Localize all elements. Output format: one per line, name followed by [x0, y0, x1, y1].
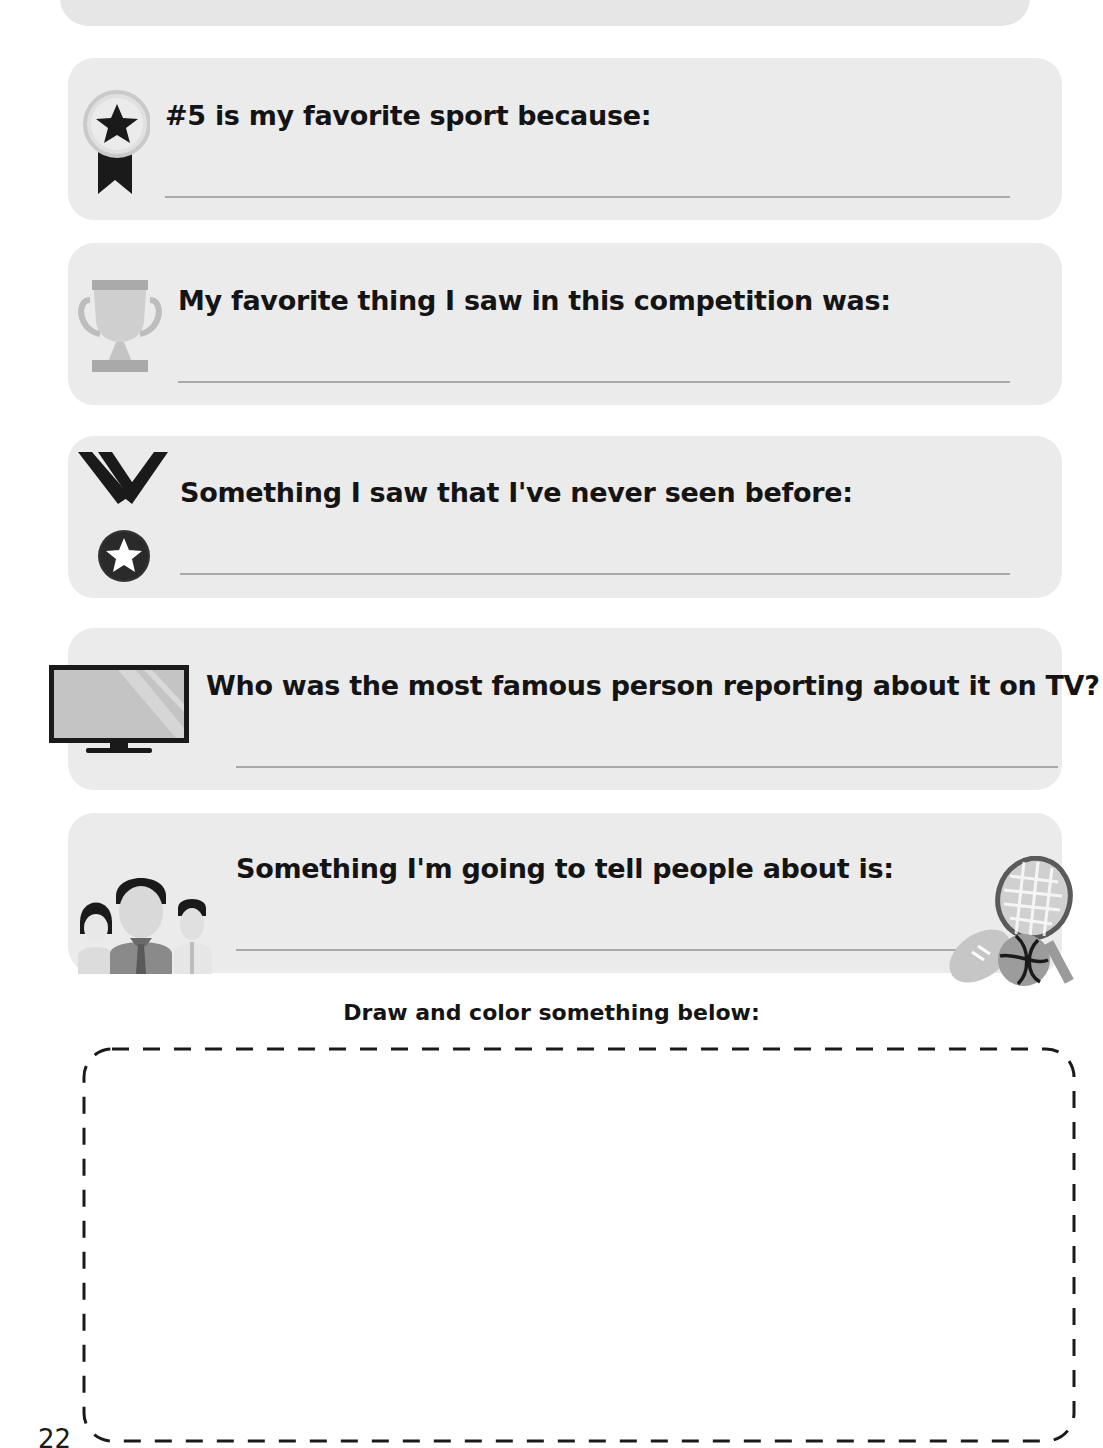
answer-line[interactable]	[178, 381, 1010, 383]
tv-icon	[48, 664, 190, 754]
prompt-text: Something I saw that I've never seen bef…	[180, 477, 853, 508]
answer-line[interactable]	[236, 766, 1058, 768]
answer-line[interactable]	[180, 573, 1010, 575]
sports-equipment-icon	[946, 856, 1086, 986]
drawing-label: Draw and color something below:	[0, 1000, 1103, 1025]
trophy-icon	[76, 278, 164, 374]
prompt-text: My favorite thing I saw in this competit…	[178, 285, 891, 316]
answer-line[interactable]	[165, 196, 1010, 198]
answer-line[interactable]	[236, 949, 956, 951]
prompt-text: #5 is my favorite sport because:	[165, 100, 651, 131]
prompt-text: Something I'm going to tell people about…	[236, 853, 894, 884]
prompt-text: Who was the most famous person reporting…	[206, 670, 1100, 701]
medal-icon	[78, 448, 174, 584]
people-icon	[78, 872, 224, 974]
drawing-area[interactable]	[82, 1047, 1076, 1443]
medal-ribbon-icon	[80, 86, 150, 196]
top-banner	[60, 0, 1030, 26]
page-number: 22	[38, 1424, 71, 1448]
